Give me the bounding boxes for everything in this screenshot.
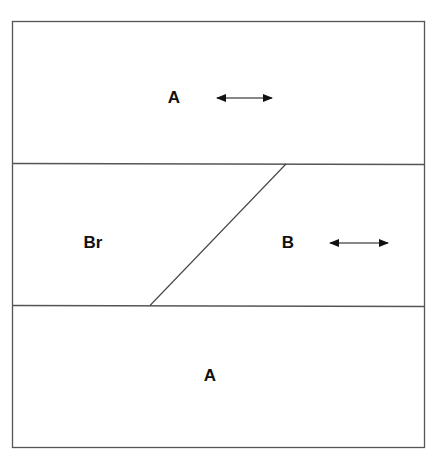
label-bottom-layer: A (204, 366, 216, 386)
label-middle-right-layer: B (282, 233, 294, 253)
diagonal-boundary-line (150, 164, 286, 306)
diagram-canvas (0, 0, 438, 458)
label-top-layer: A (168, 88, 180, 108)
upper-boundary-line (12, 164, 425, 165)
label-middle-left-layer: Br (84, 233, 103, 253)
lower-boundary-line (12, 306, 425, 307)
